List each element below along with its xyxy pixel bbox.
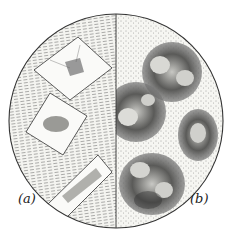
panel-label-b: (b)	[190, 191, 208, 206]
granular-body-4	[119, 153, 185, 215]
granular-body-3	[178, 109, 218, 161]
panel-b-ground	[106, 0, 231, 238]
panel-label-a: (a)	[18, 191, 36, 206]
